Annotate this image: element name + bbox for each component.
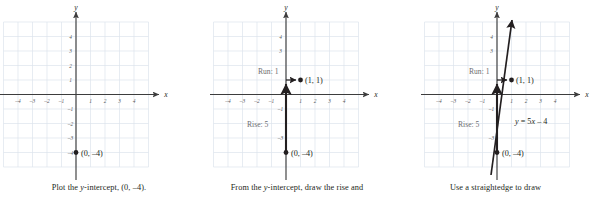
equation-rhs-a: = 5 — [519, 117, 532, 126]
svg-text:–2: –2 — [464, 98, 471, 104]
equation-label: y = 5x – 4 — [514, 117, 547, 126]
svg-text:–2: –2 — [43, 98, 50, 104]
svg-text:3: 3 — [327, 98, 331, 104]
svg-text:1: 1 — [69, 77, 72, 83]
svg-text:–1: –1 — [488, 106, 495, 112]
svg-text:–3: –3 — [277, 135, 284, 141]
svg-text:–2: –2 — [67, 121, 74, 127]
caption-text-after: -intercept, draw the rise and — [268, 183, 364, 192]
svg-text:–1: –1 — [67, 106, 74, 112]
point-second — [509, 78, 514, 83]
run-label: Run: 1 — [469, 67, 490, 76]
point-y-intercept-label: (0, –4) — [81, 149, 103, 158]
point-y-intercept — [74, 150, 79, 155]
svg-text:–4: –4 — [67, 150, 74, 156]
caption-text-before: Plot the — [52, 183, 81, 192]
svg-text:–3: –3 — [67, 135, 74, 141]
svg-text:3: 3 — [68, 48, 72, 54]
svg-text:–1: –1 — [268, 98, 275, 104]
point-second — [298, 78, 303, 83]
svg-text:–1: –1 — [58, 98, 65, 104]
svg-text:2: 2 — [69, 63, 72, 69]
panel-1-caption: Plot the y-intercept, (0, –4). — [0, 183, 198, 192]
panel-1-plot: x y –4 –3 –2 –1 1 2 3 4 4 3 2 1 –1 — [0, 0, 198, 180]
equation-rhs-b: – 4 — [535, 117, 547, 126]
svg-text:–3: –3 — [488, 135, 495, 141]
svg-text:2: 2 — [525, 98, 528, 104]
svg-text:4: 4 — [279, 34, 282, 40]
svg-text:3: 3 — [117, 98, 121, 104]
x-tick-labels: –4 –3 –2 –1 1 2 3 4 — [14, 98, 135, 104]
rise-label: Rise: 5 — [247, 120, 269, 129]
svg-text:–3: –3 — [239, 98, 246, 104]
caption-text-before: From the — [231, 183, 264, 192]
rise-label: Rise: 5 — [458, 120, 480, 129]
x-axis-label: x — [584, 90, 589, 99]
svg-text:3: 3 — [489, 48, 493, 54]
svg-text:3: 3 — [278, 48, 282, 54]
svg-text:4: 4 — [133, 98, 136, 104]
y-axis-label: y — [494, 3, 499, 12]
svg-text:–2: –2 — [253, 98, 260, 104]
svg-text:4: 4 — [490, 34, 493, 40]
svg-text:–3: –3 — [29, 98, 36, 104]
svg-text:3: 3 — [538, 98, 542, 104]
svg-text:–4: –4 — [224, 98, 231, 104]
point-y-intercept — [495, 150, 500, 155]
svg-text:4: 4 — [343, 98, 346, 104]
panel-3-caption: Use a straightedge to draw — [396, 183, 595, 192]
svg-text:2: 2 — [104, 98, 107, 104]
svg-text:–3: –3 — [450, 98, 457, 104]
svg-text:4: 4 — [554, 98, 557, 104]
y-tick-labels: 4 3 –1 –3 — [488, 34, 495, 142]
panel-1: x y –4 –3 –2 –1 1 2 3 4 4 3 2 1 –1 — [0, 0, 198, 203]
svg-text:–4: –4 — [435, 98, 442, 104]
point-y-intercept-label: (0, –4) — [291, 149, 313, 158]
panel-3: x y –4 –3 –2 –1 1 2 3 4 4 3 –1 –3 — [396, 0, 595, 203]
svg-text:1: 1 — [89, 98, 92, 104]
x-axis-label: x — [373, 90, 378, 99]
point-second-label: (1, 1) — [305, 76, 323, 85]
panel-3-plot: x y –4 –3 –2 –1 1 2 3 4 4 3 –1 –3 — [396, 0, 594, 180]
point-y-intercept-label: (0, –4) — [502, 149, 524, 158]
panel-2: x y –4 –3 –2 –1 1 2 3 4 4 3 –1 –3 — [198, 0, 396, 203]
svg-text:1: 1 — [510, 98, 513, 104]
svg-text:4: 4 — [69, 34, 72, 40]
point-second-label: (1, 1) — [516, 76, 534, 85]
caption-text-before: Use a straightedge to draw — [450, 183, 541, 192]
panel-2-plot: x y –4 –3 –2 –1 1 2 3 4 4 3 –1 –3 — [198, 0, 396, 180]
run-label: Run: 1 — [258, 67, 279, 76]
worked-example-figure: x y –4 –3 –2 –1 1 2 3 4 4 3 2 1 –1 — [0, 0, 595, 203]
svg-text:–4: –4 — [14, 98, 21, 104]
y-tick-labels: 4 3 –1 –3 — [277, 34, 284, 142]
panel-2-caption: From the y-intercept, draw the rise and — [198, 183, 396, 192]
svg-text:1: 1 — [299, 98, 302, 104]
caption-text-after: -intercept, (0, –4). — [84, 183, 146, 192]
svg-text:–1: –1 — [479, 98, 486, 104]
svg-text:–1: –1 — [277, 106, 284, 112]
y-axis-label: y — [73, 3, 78, 12]
y-axis-label: y — [283, 3, 288, 12]
x-axis-label: x — [163, 90, 168, 99]
svg-text:2: 2 — [314, 98, 317, 104]
point-y-intercept — [284, 150, 289, 155]
